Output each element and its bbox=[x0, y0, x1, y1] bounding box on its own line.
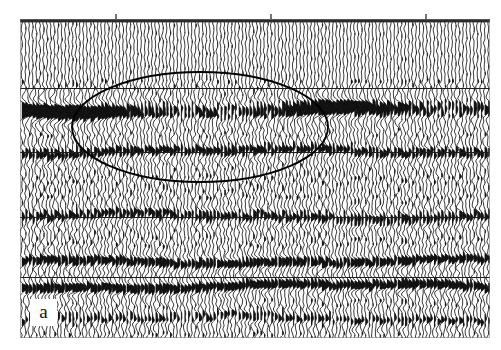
seismic-trace-canvas bbox=[20, 19, 490, 338]
panel-letter-label: a bbox=[30, 299, 57, 326]
seismic-figure: a bbox=[0, 0, 501, 350]
seismic-panel bbox=[20, 19, 490, 338]
